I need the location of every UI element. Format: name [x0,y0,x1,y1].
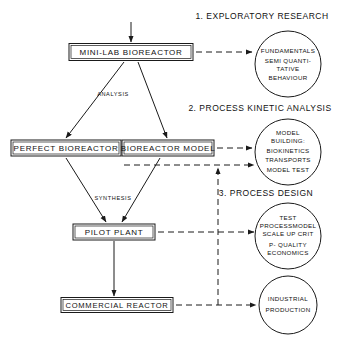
connector-perfect-bioreactor-to-pilot-plant [66,158,106,222]
label-bioreactor-model: BIOREACTOR MODEL [121,144,216,153]
circle-line: TEST [250,214,326,222]
label-perfect-bioreactor: PERFECT BIOREACTOR [14,144,119,153]
circle-line: FUNDAMENTALS [250,47,326,55]
circle-line: TATIVE [250,65,326,73]
heading-process-design: 3. PROCESS DESIGN [219,188,313,198]
edge-label-analysis: ANALYSIS [97,91,129,97]
connector-bioreactor-model-to-pilot-plant [122,158,160,222]
circle-line: BUILDING: [250,138,326,146]
heading-exploratory-research: 1. EXPLORATORY RESEARCH [195,11,328,21]
text-circle-model-building: MODEL BUILDING: BIOKINETICS TRANSPORTS M… [250,129,326,174]
circle-line: ECONOMICS [250,249,326,257]
circle-line: TRANSPORTS [250,156,326,164]
circle-line: PRODUCTION [250,307,326,315]
circle-line: P- QUALITY [250,241,326,249]
circle-line: BIOKINETICS [250,148,326,156]
circle-line: INDUSTRIAL [250,295,326,303]
heading-process-kinetic-analysis: 2. PROCESS KINETIC ANALYSIS [188,103,331,113]
text-circle-industrial-production: INDUSTRIAL PRODUCTION [250,295,326,314]
bioprocess-development-diagram: MINI-LAB BIOREACTOR PERFECT BIOREACTOR B… [0,0,346,349]
text-circle-process-design-tests: TEST PROCESSMODEL SCALE UP CRIT P- QUALI… [250,214,326,257]
edge-label-synthesis: SYNTHESIS [94,195,131,201]
circle-line: SEMI QUANTI- [250,57,326,65]
circle-line: BEHAVIOUR [250,73,326,81]
circle-line: MODEL [250,129,326,137]
circle-line: PROCESSMODEL [250,223,326,231]
text-circle-fundamentals: FUNDAMENTALS SEMI QUANTI- TATIVE BEHAVIO… [250,47,326,82]
circle-line: MODEL TEST [250,166,326,174]
label-mini-lab-bioreactor: MINI-LAB BIOREACTOR [80,48,183,57]
connector-mini-lab-to-bioreactor-model [138,62,167,138]
connector-mini-lab-to-perfect-bioreactor [66,62,124,138]
label-commercial-reactor: COMMERCIAL REACTOR [66,301,169,310]
circle-line: SCALE UP CRIT [250,231,326,239]
label-pilot-plant: PILOT PLANT [85,228,144,237]
